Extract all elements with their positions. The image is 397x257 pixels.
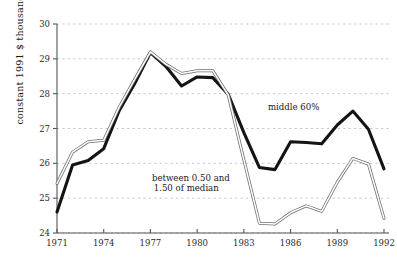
x-tick-label-1992: 1992 bbox=[373, 238, 395, 248]
y-tick-label-25: 25 bbox=[39, 193, 50, 203]
line-chart-plot: 24252627282930 1971197419771980198319861… bbox=[0, 0, 397, 257]
y-tick-label-24: 24 bbox=[39, 228, 50, 238]
x-tick-label-1980: 1980 bbox=[186, 238, 208, 248]
chart-figure: constant 1991 $ thousands 24252627282930… bbox=[0, 0, 397, 257]
x-tick-label-1989: 1989 bbox=[326, 238, 348, 248]
y-tick-label-26: 26 bbox=[39, 158, 50, 168]
y-tick-label-30: 30 bbox=[39, 19, 50, 29]
x-tick-group: 19711974197719801983198619891992 bbox=[46, 229, 395, 248]
x-tick-label-1986: 1986 bbox=[280, 238, 302, 248]
x-tick-label-1971: 1971 bbox=[46, 238, 68, 248]
y-tick-label-28: 28 bbox=[39, 89, 50, 99]
y-tick-label-27: 27 bbox=[39, 124, 50, 134]
between-label-line1: between 0.50 and bbox=[152, 173, 230, 183]
between-label-line2: 1.50 of median bbox=[154, 183, 220, 193]
middle-60-label: middle 60% bbox=[268, 102, 320, 112]
y-tick-group: 24252627282930 bbox=[39, 19, 57, 238]
y-tick-label-29: 29 bbox=[39, 54, 50, 64]
gridlines-group bbox=[57, 24, 389, 233]
x-tick-label-1983: 1983 bbox=[233, 238, 255, 248]
x-tick-label-1974: 1974 bbox=[93, 238, 115, 248]
x-tick-label-1977: 1977 bbox=[140, 238, 162, 248]
